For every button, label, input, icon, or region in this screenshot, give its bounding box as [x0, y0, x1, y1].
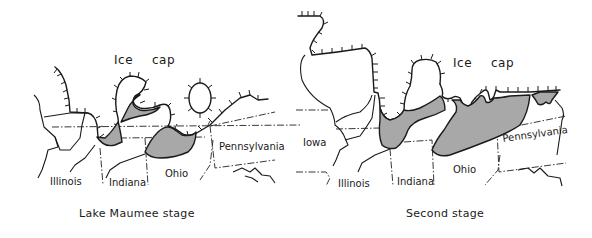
glacial-lakes-diagram: Ice cap Illinois Indiana Ohio Pennsylvan…: [0, 0, 592, 238]
lake-maumee-west: [97, 122, 122, 146]
ice-island-ticks: [184, 78, 216, 118]
state-label-pennsylvania: Pennsylvania: [219, 141, 285, 152]
lake-maumee: [145, 127, 196, 158]
state-label-indiana: Indiana: [109, 177, 146, 188]
cap-label: cap: [152, 53, 175, 67]
panel-caption: Lake Maumee stage: [79, 207, 195, 220]
panel-caption: Second stage: [406, 207, 484, 220]
panel-lake-maumee: Ice cap Illinois Indiana Ohio Pennsylvan…: [34, 53, 300, 220]
lake-east: [432, 95, 530, 156]
lake-far-east: [532, 92, 558, 105]
ice-label: Ice: [453, 56, 472, 70]
state-label-ohio: Ohio: [165, 168, 188, 179]
lake-west: [379, 96, 445, 149]
state-label-illinois: Illinois: [50, 176, 82, 187]
state-label-illinois: Illinois: [338, 178, 370, 189]
panel-second-stage: Ice cap Iowa Illinois Indiana Ohio Penns…: [296, 11, 568, 220]
ice-margin-ticks: [54, 69, 258, 137]
ohio-river: [233, 168, 275, 183]
state-label-indiana: Indiana: [397, 176, 434, 187]
ice-island: [189, 83, 211, 113]
ohio-river: [518, 168, 562, 186]
cap-label: cap: [491, 56, 514, 70]
state-label-iowa: Iowa: [303, 137, 326, 148]
ice-margin-west: [298, 16, 441, 120]
state-label-ohio: Ohio: [453, 164, 476, 175]
ice-label: Ice: [114, 53, 133, 67]
